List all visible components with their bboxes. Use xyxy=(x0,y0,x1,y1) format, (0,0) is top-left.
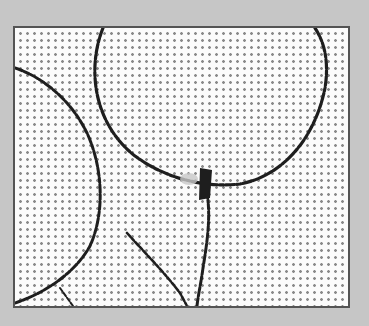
illustration-frame xyxy=(13,26,350,308)
left-balloon-outline xyxy=(15,68,100,303)
balloon-string-left xyxy=(127,233,187,306)
balloon-knot xyxy=(180,168,212,200)
balloon-string-small xyxy=(60,288,73,306)
balloon-string-right xyxy=(197,193,209,306)
large-balloon-outline xyxy=(95,28,327,185)
balloon-illustration xyxy=(15,28,348,306)
